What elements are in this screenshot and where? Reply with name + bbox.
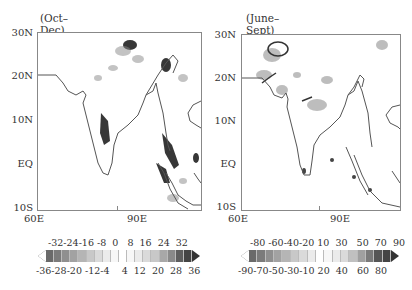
- map-frame: [241, 34, 401, 211]
- y-tick-label: 10S: [208, 201, 236, 212]
- y-tick-label: EQ: [5, 158, 33, 169]
- colorbar-bottom-labels: -90-70-50-30-10 20 40 60 80: [238, 265, 387, 276]
- colorbar-extend-high: [391, 250, 399, 262]
- map-coastline-and-shading: [242, 35, 400, 210]
- y-tick-label: 10S: [5, 202, 33, 213]
- map-coastline-and-shading: [38, 33, 201, 210]
- colorbar-top-labels: -32-24-16 -8 0 8 16 24 32: [48, 237, 188, 248]
- x-tick-label: 90E: [127, 213, 147, 224]
- colorbar-bottom-labels: -36-28-20 -12-4 4 12 20 28 36: [36, 265, 200, 276]
- y-tick-label: 30N: [208, 29, 236, 40]
- colorbar-extend-low: [38, 250, 46, 262]
- y-tick-label: 20N: [208, 72, 236, 83]
- x-tick: [319, 206, 320, 210]
- y-tick-label: 10N: [5, 114, 33, 125]
- map-frame: [37, 32, 202, 211]
- x-tick-label: 60E: [228, 213, 248, 224]
- colorbar-extend-high: [192, 250, 200, 262]
- colorbar-june-sept: [241, 250, 399, 262]
- x-tick-label: 60E: [24, 213, 44, 224]
- panel-title: (June–Sept): [246, 12, 279, 36]
- y-tick-label: EQ: [208, 158, 236, 169]
- x-tick-label: 90E: [330, 213, 350, 224]
- y-tick-label: 20N: [5, 70, 33, 81]
- colorbar-top-labels: -80 -60-40-20 10 30 50 70 90: [250, 237, 405, 248]
- colorbar-extend-low: [241, 250, 249, 262]
- y-tick-label: 10N: [208, 115, 236, 126]
- y-tick-label: 30N: [5, 27, 33, 38]
- x-tick: [117, 206, 118, 210]
- colorbar-oct-dec: [38, 250, 200, 262]
